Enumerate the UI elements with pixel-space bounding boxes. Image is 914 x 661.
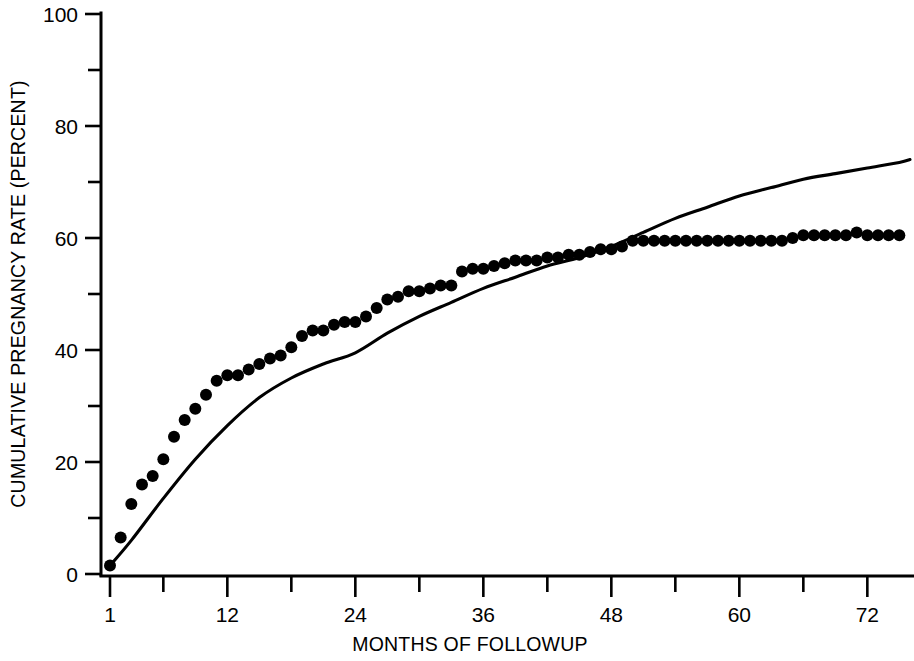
data-point <box>275 350 287 362</box>
data-point <box>339 316 351 328</box>
data-point <box>221 369 233 381</box>
chart-canvas: 020406080100 1122436486072 CUMULATIVE PR… <box>0 0 914 661</box>
observed-data-points <box>104 226 905 571</box>
data-point <box>115 532 127 544</box>
data-point <box>189 403 201 415</box>
data-point <box>808 229 820 241</box>
y-tick-label: 60 <box>55 227 78 250</box>
x-tick-label: 36 <box>472 603 495 626</box>
data-point <box>403 285 415 297</box>
data-point <box>157 453 169 465</box>
data-point <box>627 235 639 247</box>
x-axis-group: 1122436486072 <box>101 576 914 626</box>
x-axis-title: MONTHS OF FOLLOWUP <box>352 633 587 655</box>
data-point <box>797 229 809 241</box>
data-point <box>744 235 756 247</box>
x-tick-label: 1 <box>104 603 116 626</box>
data-point <box>819 229 831 241</box>
data-point <box>787 232 799 244</box>
data-point <box>851 226 863 238</box>
data-point <box>691 235 703 247</box>
data-point <box>296 330 308 342</box>
x-tick-label: 72 <box>856 603 879 626</box>
y-axis-tick-labels: 020406080100 <box>43 3 78 586</box>
data-point <box>520 254 532 266</box>
data-point <box>253 358 265 370</box>
y-tick-label: 80 <box>55 115 78 138</box>
data-point <box>755 235 767 247</box>
x-axis-major-ticks <box>110 576 867 597</box>
data-point <box>701 235 713 247</box>
data-point <box>499 257 511 269</box>
y-tick-label: 0 <box>66 563 78 586</box>
data-point <box>435 280 447 292</box>
data-point <box>573 249 585 261</box>
data-point <box>104 560 116 572</box>
y-tick-label: 100 <box>43 3 78 26</box>
data-point <box>509 254 521 266</box>
data-point <box>605 243 617 255</box>
data-point <box>467 263 479 275</box>
data-point <box>413 285 425 297</box>
data-point <box>125 498 137 510</box>
data-point <box>765 235 777 247</box>
data-point <box>723 235 735 247</box>
data-point <box>445 280 457 292</box>
data-point <box>349 316 361 328</box>
data-point <box>456 266 468 278</box>
y-tick-label: 20 <box>55 451 78 474</box>
data-point <box>232 369 244 381</box>
x-tick-label: 60 <box>728 603 751 626</box>
data-point <box>648 235 660 247</box>
data-point <box>200 389 212 401</box>
data-point <box>488 260 500 272</box>
x-tick-label: 12 <box>216 603 239 626</box>
data-point <box>861 229 873 241</box>
data-point <box>712 235 724 247</box>
x-tick-label: 24 <box>344 603 368 626</box>
data-point <box>264 352 276 364</box>
data-point <box>168 431 180 443</box>
data-point <box>328 319 340 331</box>
data-point <box>776 235 788 247</box>
data-point <box>285 341 297 353</box>
data-point <box>563 249 575 261</box>
data-point <box>179 414 191 426</box>
data-point <box>552 252 564 264</box>
data-point <box>659 235 671 247</box>
data-point <box>616 240 628 252</box>
data-point <box>477 263 489 275</box>
y-axis-group: 020406080100 <box>43 3 101 586</box>
y-axis-title: CUMULATIVE PREGNANCY RATE (PERCENT) <box>7 80 29 507</box>
y-axis-minor-ticks <box>88 70 101 518</box>
data-point <box>733 235 745 247</box>
data-point <box>829 229 841 241</box>
data-point <box>840 229 852 241</box>
data-point <box>392 291 404 303</box>
data-point <box>381 294 393 306</box>
y-tick-label: 40 <box>55 339 78 362</box>
fitted-model-curve <box>110 160 910 566</box>
data-point <box>136 478 148 490</box>
data-point <box>893 229 905 241</box>
pregnancy-rate-figure: 020406080100 1122436486072 CUMULATIVE PR… <box>0 0 914 661</box>
data-point <box>595 243 607 255</box>
data-point <box>584 246 596 258</box>
data-point <box>360 310 372 322</box>
data-point <box>541 252 553 264</box>
data-point <box>680 235 692 247</box>
data-point <box>211 375 223 387</box>
data-point <box>883 229 895 241</box>
data-point <box>872 229 884 241</box>
data-point <box>669 235 681 247</box>
data-point <box>243 364 255 376</box>
x-tick-label: 48 <box>600 603 623 626</box>
data-point <box>307 324 319 336</box>
data-point <box>317 324 329 336</box>
data-point <box>531 254 543 266</box>
data-point <box>637 235 649 247</box>
data-point <box>147 470 159 482</box>
data-point <box>424 282 436 294</box>
data-point <box>371 302 383 314</box>
x-axis-tick-labels: 1122436486072 <box>104 603 879 626</box>
